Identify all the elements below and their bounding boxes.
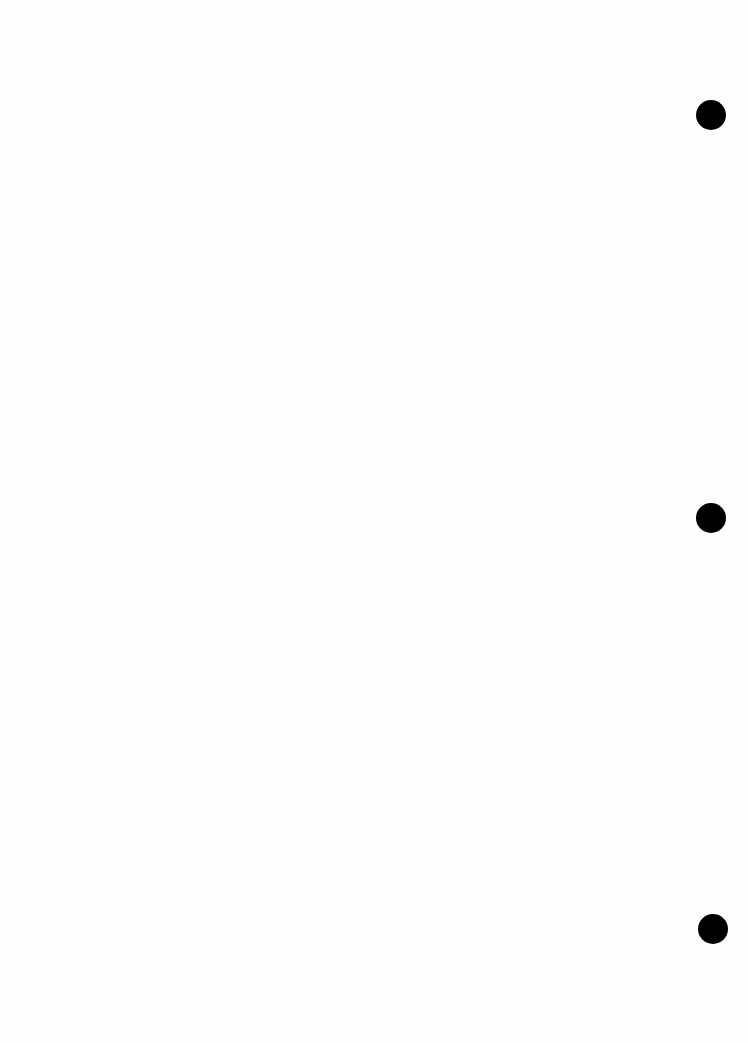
punch-hole-top: [696, 100, 726, 130]
blank-page: [0, 0, 748, 1043]
punch-hole-bottom: [698, 914, 728, 944]
punch-hole-middle: [696, 503, 726, 533]
